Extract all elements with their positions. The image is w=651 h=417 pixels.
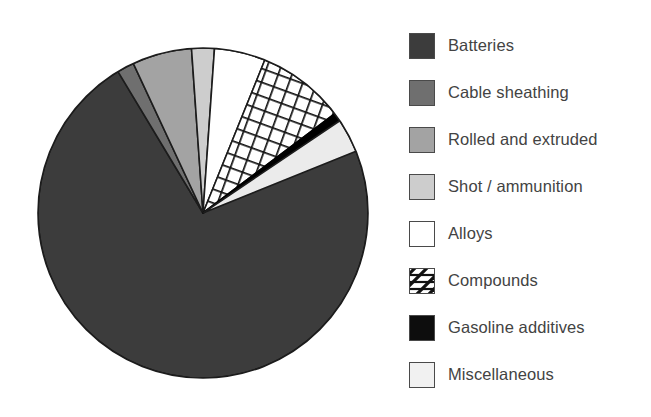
- legend-label-alloys: Alloys: [448, 225, 493, 242]
- black-swatch: [409, 315, 435, 341]
- pie-chart-svg: [0, 0, 400, 417]
- hatched-swatch: [409, 268, 435, 294]
- legend-label-shot-ammunition: Shot / ammunition: [448, 178, 583, 195]
- legend-label-cable-sheathing: Cable sheathing: [448, 84, 569, 101]
- light-gray-swatch: [409, 127, 435, 153]
- pie-slices-group: [38, 48, 368, 378]
- white-swatch: [409, 221, 435, 247]
- legend-label-miscellaneous: Miscellaneous: [448, 366, 554, 383]
- pie-chart-figure: Batteries Cable sheathing Rolled and ext…: [0, 0, 651, 417]
- pale-gray-swatch: [409, 174, 435, 200]
- pie-chart-area: [0, 0, 400, 417]
- legend-item-miscellaneous[interactable]: Miscellaneous: [405, 351, 651, 398]
- legend-label-rolled-and-extruded: Rolled and extruded: [448, 131, 598, 148]
- legend-label-batteries: Batteries: [448, 37, 514, 54]
- legend-item-compounds[interactable]: Compounds: [405, 257, 651, 304]
- legend-label-compounds: Compounds: [448, 272, 538, 289]
- dark-gray-swatch: [409, 33, 435, 59]
- legend-item-batteries[interactable]: Batteries: [405, 22, 651, 69]
- legend-item-cable-sheathing[interactable]: Cable sheathing: [405, 69, 651, 116]
- chart-legend: Batteries Cable sheathing Rolled and ext…: [405, 22, 651, 402]
- legend-item-alloys[interactable]: Alloys: [405, 210, 651, 257]
- legend-item-rolled-and-extruded[interactable]: Rolled and extruded: [405, 116, 651, 163]
- medium-gray-swatch: [409, 80, 435, 106]
- legend-item-gasoline-additives[interactable]: Gasoline additives: [405, 304, 651, 351]
- legend-label-gasoline-additives: Gasoline additives: [448, 319, 585, 336]
- near-white-swatch: [409, 362, 435, 388]
- legend-item-shot-ammunition[interactable]: Shot / ammunition: [405, 163, 651, 210]
